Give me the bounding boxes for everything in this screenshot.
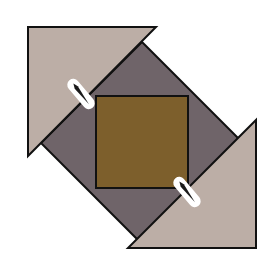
quilt-block-svg bbox=[0, 0, 276, 273]
quilt-block-diagram bbox=[0, 0, 276, 273]
center-square bbox=[96, 96, 188, 188]
